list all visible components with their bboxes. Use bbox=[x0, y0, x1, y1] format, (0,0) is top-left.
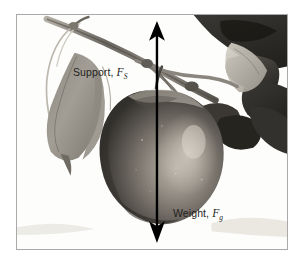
support-force-subscript: S bbox=[124, 72, 128, 81]
photograph-frame: Support, FS Weight, Fg bbox=[16, 14, 288, 250]
physics-figure: Support, FS Weight, Fg bbox=[0, 0, 302, 263]
weight-force-subscript: g bbox=[219, 213, 223, 222]
weight-force-label: Weight, Fg bbox=[173, 208, 223, 222]
photograph bbox=[17, 15, 287, 249]
support-label-text: Support, bbox=[73, 66, 114, 78]
support-force-symbol: F bbox=[117, 66, 124, 78]
weight-label-text: Weight, bbox=[173, 207, 209, 219]
support-force-label: Support, FS bbox=[73, 67, 128, 81]
